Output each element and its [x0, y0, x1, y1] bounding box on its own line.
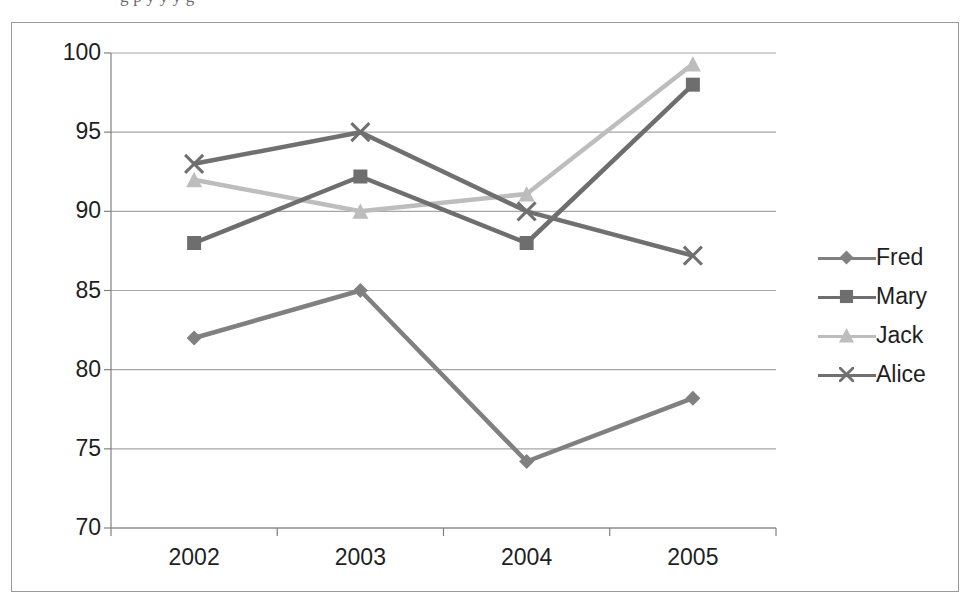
legend-glyph-square — [839, 289, 854, 304]
data-point-mary-2005 — [686, 78, 700, 92]
x-axis-label-2005: 2005 — [610, 546, 776, 569]
legend-marker-square-icon — [818, 287, 876, 307]
cropped-caption-text: g p y y y g — [120, 0, 194, 7]
legend-glyph-triangle — [839, 328, 854, 343]
y-axis-label-100: 100 — [30, 41, 101, 64]
legend-glyph — [839, 328, 854, 343]
y-axis-label-90: 90 — [30, 199, 101, 222]
legend-glyph — [839, 250, 853, 264]
data-point-jack-2005 — [685, 56, 701, 71]
series-line-jack — [194, 64, 693, 211]
legend-item-fred[interactable]: Fred — [818, 238, 968, 277]
legend-label-alice: Alice — [876, 363, 926, 386]
legend-label-fred: Fred — [876, 246, 923, 269]
legend-marker-x-icon — [818, 365, 876, 385]
series-line-fred — [194, 291, 693, 462]
legend-item-jack[interactable]: Jack — [818, 316, 968, 355]
y-axis-label-75: 75 — [30, 437, 101, 460]
legend-glyph-diamond — [839, 250, 854, 265]
series-line-mary — [194, 85, 693, 243]
x-axis-label-2004: 2004 — [444, 546, 610, 569]
chart-container: FredMaryJackAlice 7075808590951002002200… — [11, 22, 959, 592]
y-axis-label-80: 80 — [30, 358, 101, 381]
data-point-mary-2004 — [520, 236, 534, 250]
data-point-mary-2003 — [353, 170, 367, 184]
y-axis-label-70: 70 — [30, 516, 101, 539]
legend-item-alice[interactable]: Alice — [818, 355, 968, 394]
legend-glyph — [840, 289, 853, 302]
data-point-fred-2005 — [685, 391, 700, 406]
legend-glyph-x — [839, 367, 854, 382]
legend-glyph — [839, 367, 854, 382]
legend-label-mary: Mary — [876, 285, 927, 308]
line-chart-plot — [12, 23, 958, 591]
cropped-caption-strip: g p y y y g — [0, 0, 971, 14]
data-point-mary-2002 — [187, 236, 201, 250]
y-axis-label-95: 95 — [30, 120, 101, 143]
legend-item-mary[interactable]: Mary — [818, 277, 968, 316]
x-axis-label-2002: 2002 — [111, 546, 277, 569]
legend-marker-triangle-icon — [818, 326, 876, 346]
x-axis-label-2003: 2003 — [277, 546, 443, 569]
y-axis-label-85: 85 — [30, 279, 101, 302]
data-point-fred-2002 — [187, 331, 202, 346]
legend-label-jack: Jack — [876, 324, 923, 347]
legend-marker-diamond-icon — [818, 248, 876, 268]
chart-legend: FredMaryJackAlice — [818, 238, 968, 394]
